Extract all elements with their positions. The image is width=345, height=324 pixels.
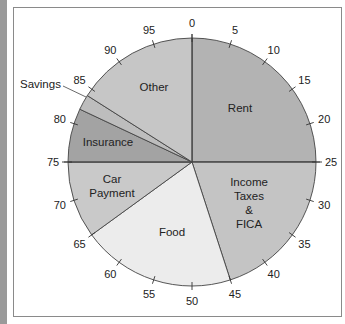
tick-label-20: 20 [318,113,330,125]
tick-label-45: 45 [229,288,241,300]
label-rent: Rent [228,102,253,114]
tick-label-80: 80 [54,113,66,125]
label-food: Food [159,226,185,238]
tick-label-0: 0 [189,17,195,29]
label-insurance: Insurance [83,136,134,148]
slice-rent [192,38,316,162]
tick-label-90: 90 [104,44,116,56]
label-income-3: & [245,204,253,216]
tick-label-85: 85 [73,74,85,86]
label-savings: Savings [20,78,61,90]
label-income-1: Income [230,176,268,188]
tick-label-5: 5 [232,24,238,36]
tick-label-25: 25 [325,156,337,168]
tick-label-65: 65 [73,238,85,250]
savings-leader-line [63,86,86,97]
tick-label-75: 75 [47,156,59,168]
tick-label-15: 15 [298,74,310,86]
label-income-4: FICA [236,218,263,230]
tick-label-35: 35 [298,238,310,250]
label-other: Other [140,81,169,93]
tick-label-95: 95 [143,24,155,36]
tick-label-30: 30 [318,199,330,211]
tick-label-50: 50 [186,295,198,307]
tick-label-60: 60 [104,268,116,280]
pie-chart: 05101520253035404550556065707580859095 R… [0,0,345,324]
label-income-2: Taxes [234,190,264,202]
label-car-2: Payment [89,187,135,199]
tick-label-40: 40 [268,268,280,280]
tick-label-10: 10 [268,44,280,56]
tick-label-70: 70 [54,199,66,211]
label-car-1: Car [103,173,122,185]
tick-label-55: 55 [143,288,155,300]
pie-slices [62,34,322,286]
